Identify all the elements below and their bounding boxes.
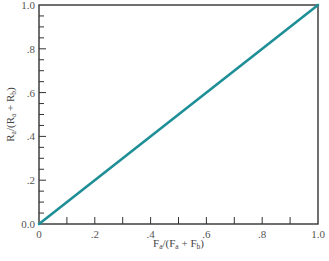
y-tick-label: .8	[27, 43, 36, 55]
x-tick-label: 0	[36, 228, 42, 240]
y-axis-label: Ra/(Ra + Rb)	[4, 87, 18, 142]
x-tick-label: .2	[91, 228, 99, 240]
x-axis-label: Fa/(Fa + Fb)	[153, 237, 204, 251]
series-line	[39, 5, 318, 224]
y-tick-label: 1.0	[21, 0, 35, 11]
y-tick-label: .4	[27, 130, 36, 142]
x-tick-label: .8	[258, 228, 267, 240]
y-tick-label: .2	[27, 174, 35, 186]
chart-canvas: 0.2.4.6.81.00.0.2.4.6.81.0Fa/(Fa + Fb)Ra…	[0, 0, 329, 261]
y-tick-label: .6	[27, 87, 36, 99]
y-tick-label: 0.0	[21, 218, 35, 230]
x-tick-label: 1.0	[311, 228, 325, 240]
